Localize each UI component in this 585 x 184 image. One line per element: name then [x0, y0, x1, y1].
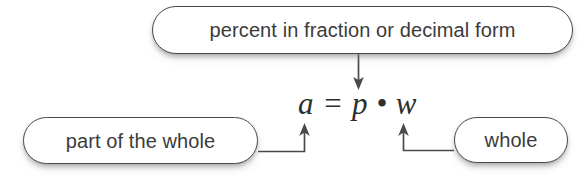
connector-part-to-a [258, 123, 310, 152]
connector-whole-line [404, 132, 455, 151]
connector-whole-to-w [398, 123, 454, 151]
up-arrow-icon-right [398, 123, 409, 136]
up-arrow-icon-left [299, 123, 310, 136]
connector-part-line [258, 132, 305, 152]
equation-text: a = p • w [298, 86, 417, 122]
callout-whole: whole [454, 117, 568, 163]
equation: a = p • w [298, 86, 428, 122]
connector-percent-to-p [353, 54, 364, 90]
callout-part-label: part of the whole [66, 131, 216, 151]
percent-equation-diagram: percent in fraction or decimal form a = … [0, 0, 585, 184]
callout-percent: percent in fraction or decimal form [152, 6, 573, 54]
callout-whole-label: whole [485, 130, 538, 150]
callout-part-of-the-whole: part of the whole [23, 117, 258, 164]
callout-percent-label: percent in fraction or decimal form [210, 20, 516, 40]
